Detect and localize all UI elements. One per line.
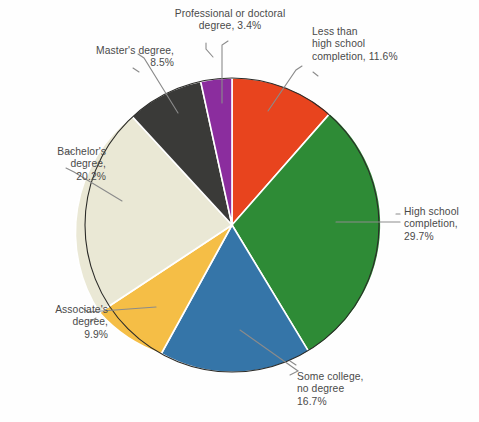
slice-label-high-school-completion: High school completion, 29.7% (404, 206, 479, 243)
leader-line-some-college-a (290, 361, 296, 365)
slice-label-some-college-no-degree: Some college, no degree 16.7% (297, 371, 423, 408)
pie-chart-figure: Professional or doctoral degree, 3.4% Le… (0, 0, 479, 422)
slice-label-associates-degree: Associate's degree, 9.9% (2, 304, 108, 341)
leader-line-less-than-high-school-b (313, 72, 318, 76)
pie-slices (75, 78, 381, 372)
leader-line-professional-a (206, 43, 213, 57)
slice-label-professional-or-doctoral-degree: Professional or doctoral degree, 3.4% (142, 8, 318, 33)
slice-label-less-than-high-school-completion: Less than high school completion, 11.6% (312, 26, 434, 63)
slice-label-masters-degree: Master's degree, 8.5% (48, 45, 174, 70)
slice-label-bachelors-degree: Bachelor's degree, 20.2% (2, 146, 106, 183)
